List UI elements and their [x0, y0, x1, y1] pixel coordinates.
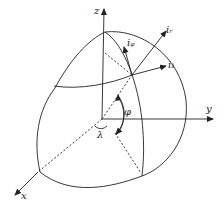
- y-axis-label: y: [206, 104, 212, 114]
- i-lambda-vector: [132, 66, 166, 75]
- phi-angle-label: φ: [124, 107, 131, 117]
- i-phi-vector: [124, 47, 132, 75]
- x-axis-label: x: [21, 191, 27, 201]
- i-r-label: ir: [166, 25, 172, 36]
- diagram-canvas: [0, 0, 224, 210]
- z-axis: [102, 9, 104, 119]
- meridian-curve: [105, 32, 144, 176]
- latitude-curve: [54, 75, 132, 87]
- i-r-vector: [132, 31, 166, 75]
- surface-outline: [37, 32, 186, 188]
- i-lambda-label: iλ: [168, 60, 175, 71]
- spherical-coordinates-diagram: z y x φ λ ir iφ iλ: [0, 0, 224, 210]
- i-phi-label: iφ: [127, 38, 134, 49]
- z-axis-label: z: [94, 6, 99, 16]
- lambda-angle-label: λ: [97, 130, 103, 140]
- phi-angle-arc: [116, 96, 124, 134]
